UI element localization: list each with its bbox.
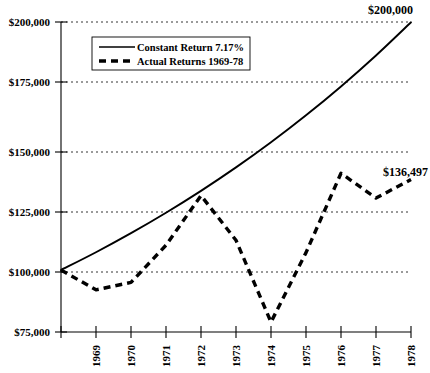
- x-tick-label-1973: 1973: [230, 345, 242, 368]
- x-tick-label-1976: 1976: [335, 345, 347, 368]
- annotation-200000: $200,000: [368, 3, 413, 17]
- x-tick-label-1969: 1969: [90, 345, 102, 368]
- legend-label-actual-returns: Actual Returns 1969-78: [137, 56, 243, 67]
- y-tick-label-150000: $150,000: [9, 146, 51, 158]
- series-line-actual-returns: [61, 173, 411, 322]
- x-tick-label-1972: 1972: [195, 345, 207, 368]
- x-tick-label-1977: 1977: [370, 345, 382, 368]
- y-tick-label-75000: $75,000: [14, 326, 50, 338]
- x-tick-label-1978: 1978: [405, 345, 417, 368]
- x-axis: 1969 1970 1971 1972 1973 1974 1975 1976 …: [61, 326, 417, 367]
- annotation-label-endpoint-actual: $136,497: [383, 165, 428, 179]
- annotation-136497: $136,497: [383, 165, 428, 179]
- legend-label-constant-return: Constant Return 7.17%: [137, 42, 244, 53]
- y-tick-label-200000: $200,000: [9, 16, 51, 28]
- y-tick-label-125000: $125,000: [9, 206, 51, 218]
- y-tick-label-100000: $100,000: [9, 266, 51, 278]
- returns-line-chart: $200,000 $175,000 $150,000 $125,000 $100…: [0, 0, 430, 373]
- x-tick-label-1971: 1971: [160, 345, 172, 367]
- y-axis: $200,000 $175,000 $150,000 $125,000 $100…: [9, 16, 67, 338]
- chart-legend: Constant Return 7.17% Actual Returns 196…: [92, 37, 250, 70]
- x-tick-label-1975: 1975: [300, 345, 312, 368]
- x-tick-label-1970: 1970: [125, 345, 137, 368]
- chart-container: $200,000 $175,000 $150,000 $125,000 $100…: [0, 0, 430, 373]
- annotation-label-endpoint-constant: $200,000: [368, 3, 413, 17]
- y-tick-label-175000: $175,000: [9, 76, 51, 88]
- x-tick-label-1974: 1974: [265, 345, 277, 368]
